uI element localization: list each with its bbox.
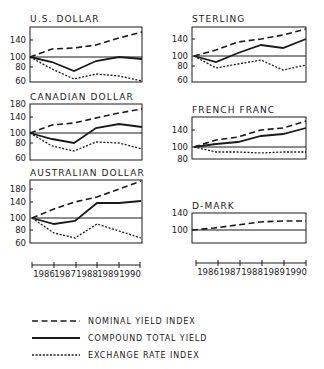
y-tick: 140 [172,208,188,218]
y-tick: 100 [10,213,26,223]
panel-d-mark: D-MARK 140 100 [172,201,306,243]
x-tick-label: 1986 [33,269,55,279]
legend-label: NOMINAL YIELD INDEX [88,317,196,326]
y-tick: 140 [10,112,26,122]
panel-sterling: STERLING 140 100 80 60 [172,14,306,85]
y-tick: 60 [15,153,26,163]
x-tick-label: 1988 [76,269,98,279]
panel-title: FRENCH FRANC [192,105,275,115]
legend: NOMINAL YIELD INDEX COMPOUND TOTAL YIELD… [32,317,207,360]
y-tick: 140 [10,197,26,207]
y-tick: 80 [15,138,26,148]
plot-frame [192,213,306,243]
series-exchange-rate [32,218,141,238]
series-nominal-yield [30,32,142,57]
y-tick: 60 [15,76,26,86]
x-tick-label: 1990 [119,269,141,279]
x-tick-label: 1989 [97,269,119,279]
x-tick-label: 1986 [197,267,219,277]
series-exchange-rate [194,56,306,70]
series-compound-total-yield [194,128,306,147]
series-compound-total-yield [32,201,141,224]
legend-label: EXCHANGE RATE INDEX [88,351,200,360]
y-tick: 80 [177,61,188,71]
x-tick-label: 1989 [263,267,285,277]
legend-item-exchange: EXCHANGE RATE INDEX [32,351,200,360]
panel-title: D-MARK [192,201,235,211]
plot-frame [30,27,142,82]
series-nominal-yield [194,29,306,56]
series-nominal-yield [192,221,306,230]
y-tick: 100 [10,52,26,62]
x-axis-left: 1986 1987 1988 1989 1990 [32,262,141,279]
y-tick: 100 [172,142,188,152]
x-tick-label: 1987 [219,267,241,277]
panel-us-dollar: U.S. DOLLAR 140 100 80 60 [10,14,142,86]
y-tick: 140 [172,125,188,135]
y-tick: 100 [10,128,26,138]
currency-yield-charts: U.S. DOLLAR 140 100 80 60 STERLING 140 1… [0,0,324,369]
panel-title: CANADIAN DOLLAR [30,92,134,102]
y-tick: 140 [172,34,188,44]
y-tick: 80 [177,154,188,164]
series-compound-total-yield [194,39,306,62]
y-tick: 60 [15,238,26,248]
x-axis-right: 1986 1987 1988 1989 1990 [196,260,307,277]
series-exchange-rate [194,147,306,153]
series-nominal-yield [30,109,142,133]
panel-title: AUSTRALIAN DOLLAR [30,168,145,178]
legend-label: COMPOUND TOTAL YIELD [88,334,207,343]
panel-australian-dollar: AUSTRALIAN DOLLAR 180 140 100 80 60 [10,168,145,248]
panel-canadian-dollar: CANADIAN DOLLAR 180 140 100 80 60 [10,92,142,163]
series-nominal-yield [194,121,306,147]
y-tick: 80 [15,225,26,235]
series-compound-total-yield [30,57,142,71]
panel-french-franc: FRENCH FRANC 140 100 80 [172,105,306,164]
x-tick-label: 1988 [241,267,263,277]
y-tick: 100 [172,51,188,61]
legend-item-nominal: NOMINAL YIELD INDEX [32,317,196,326]
y-axis: 140 100 [172,208,188,235]
y-tick: 180 [10,99,26,109]
y-tick: 100 [172,225,188,235]
y-tick: 80 [15,62,26,72]
y-tick: 180 [10,184,26,194]
y-tick: 140 [10,35,26,45]
panel-title: STERLING [192,14,245,24]
x-tick-label: 1990 [285,267,307,277]
panel-title: U.S. DOLLAR [30,14,100,24]
legend-item-compound: COMPOUND TOTAL YIELD [32,334,207,343]
y-tick: 60 [177,75,188,85]
x-tick-label: 1987 [54,269,76,279]
plot-frame [192,27,306,82]
